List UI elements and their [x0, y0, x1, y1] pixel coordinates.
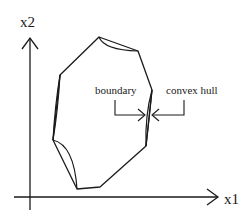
x-axis	[14, 189, 218, 205]
y-axis-label: x2	[20, 14, 35, 30]
boundary-curve	[53, 37, 152, 189]
convex-hull-pointer	[152, 100, 184, 121]
convex-hull-label: convex hull	[166, 84, 218, 96]
diagram-canvas: x2 x1 boundary convex hull	[0, 0, 249, 220]
boundary-label: boundary	[95, 84, 137, 96]
y-axis	[22, 38, 38, 210]
x-axis-label: x1	[224, 191, 239, 207]
boundary-pointer	[115, 100, 145, 121]
convex-hull-polygon	[53, 37, 152, 189]
